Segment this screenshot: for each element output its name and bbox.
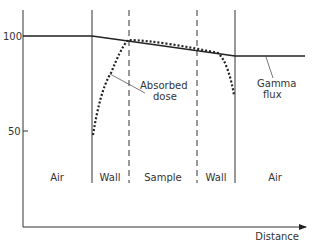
region-label-air-right: Air — [268, 172, 283, 183]
gamma-flux-curve — [23, 36, 305, 56]
dose-flux-diagram: 100 50 Absorbed dose Gamma flux Air Wall… — [0, 0, 313, 246]
region-label-sample: Sample — [144, 172, 182, 183]
region-label-wall-right: Wall — [206, 172, 227, 183]
x-axis-title: Distance — [255, 231, 299, 242]
region-label-wall-left: Wall — [100, 172, 121, 183]
absorbed-dose-label-line1: Absorbed — [140, 80, 187, 91]
gamma-flux-label-line2: flux — [263, 89, 282, 100]
gamma-flux-label-line1: Gamma — [257, 78, 297, 89]
y-tick-label-100: 100 — [3, 31, 22, 42]
y-tick-label-50: 50 — [8, 126, 21, 137]
gamma-flux-leader — [266, 57, 273, 78]
region-label-air-left: Air — [50, 172, 65, 183]
absorbed-dose-label-line2: dose — [153, 91, 177, 102]
